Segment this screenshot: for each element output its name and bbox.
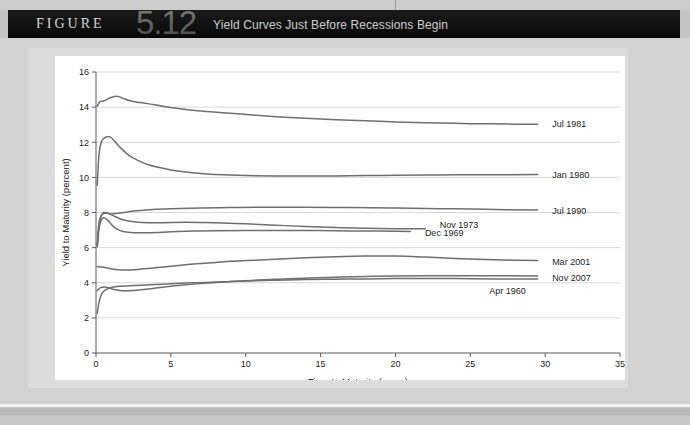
y-tick-label: 2 [84,313,89,323]
bottom-rule-mid [0,408,690,415]
x-tick-label: 15 [316,359,326,369]
x-tick-label: 0 [93,359,98,369]
y-tick-label: 0 [84,348,89,358]
series-label-jul-1981: Jul 1981 [552,119,586,129]
y-tick-label: 10 [79,173,89,183]
series-label-dec-1969: Dec 1969 [425,228,464,238]
figure-number: 5.12 [136,10,196,38]
x-axis-title: Time to Maturity (years) [308,376,408,380]
figure-header-band: FIGURE 5.12 Yield Curves Just Before Rec… [8,10,680,38]
y-tick-label: 6 [84,243,89,253]
y-axis-title: Yield to Maturity (percent) [60,158,71,266]
x-tick-label: 20 [390,359,400,369]
top-rule [0,0,690,10]
y-tick-label: 16 [79,67,89,77]
y-tick-label: 12 [79,138,89,148]
chart-panel: 024681012141605101520253035Time to Matur… [55,56,625,380]
x-tick-label: 5 [168,359,173,369]
x-tick-label: 10 [241,359,251,369]
x-tick-label: 30 [540,359,550,369]
page-background: FIGURE 5.12 Yield Curves Just Before Rec… [0,0,690,425]
series-label-mar-2001: Mar 2001 [552,257,590,267]
series-label-apr-1960: Apr 1960 [489,286,526,296]
series-label-nov-2007: Nov 2007 [552,273,591,283]
x-tick-label: 25 [465,359,475,369]
bottom-rule-light [0,404,690,407]
y-tick-label: 8 [84,208,89,218]
yield-curve-chart: 024681012141605101520253035Time to Matur… [55,56,625,380]
curve-mar-2001 [97,256,537,270]
series-label-jul-1990: Jul 1990 [552,206,586,216]
figure-word-label: FIGURE [36,16,105,32]
curve-jan-1980 [97,137,537,186]
y-tick-label: 4 [84,278,89,288]
figure-title: Yield Curves Just Before Recessions Begi… [213,18,448,32]
x-tick-label: 35 [615,359,625,369]
series-label-jan-1980: Jan 1980 [552,170,589,180]
y-tick-label: 14 [79,102,89,112]
curve-nov-1973 [97,212,425,246]
bottom-rule-dark [0,415,690,425]
curve-apr-1960 [97,278,537,313]
curve-jul-1981 [97,96,537,124]
